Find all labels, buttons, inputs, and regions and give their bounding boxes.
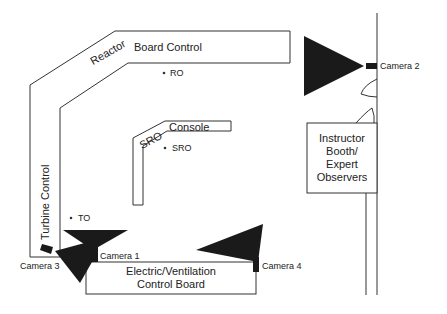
booth-line3: Expert — [326, 158, 358, 171]
camera2-body-icon — [366, 63, 377, 69]
camera3-label: Camera 3 — [20, 262, 60, 271]
control-room-diagram: Reactor Board Control Turbine Control SR… — [0, 0, 447, 314]
camera2-view-cone-icon — [304, 36, 364, 96]
turbine-control-label: Turbine Control — [40, 165, 51, 240]
camera4-view-cone-icon — [196, 224, 263, 262]
booth-line2: Booth/ — [326, 145, 358, 158]
camera1-body-icon — [92, 245, 98, 262]
door-swing-icon — [361, 79, 377, 97]
ro-label: RO — [170, 69, 184, 78]
sro-label: SRO — [172, 144, 192, 153]
booth-line1: Instructor — [319, 132, 365, 145]
instructor-booth-label: Instructor Booth/ Expert Observers — [307, 123, 377, 193]
electric-board-line2: Control Board — [137, 278, 205, 291]
camera4-label: Camera 4 — [262, 262, 302, 271]
camera3-body-icon — [40, 244, 53, 254]
sro-position-dot — [164, 147, 167, 150]
electric-board-label: Electric/Ventilation Control Board — [86, 262, 256, 294]
board-control-label: Board Control — [134, 42, 202, 53]
booth-line4: Observers — [317, 171, 368, 184]
camera1-label: Camera 1 — [100, 252, 140, 261]
ro-position-dot — [163, 72, 166, 75]
to-label: TO — [78, 214, 90, 223]
console-label: Console — [169, 122, 209, 133]
electric-board-line1: Electric/Ventilation — [126, 265, 216, 278]
camera2-label: Camera 2 — [380, 62, 420, 71]
door-swing-icon — [356, 108, 374, 123]
to-position-dot — [70, 217, 73, 220]
reactor-turbine-board-shape — [30, 31, 290, 257]
